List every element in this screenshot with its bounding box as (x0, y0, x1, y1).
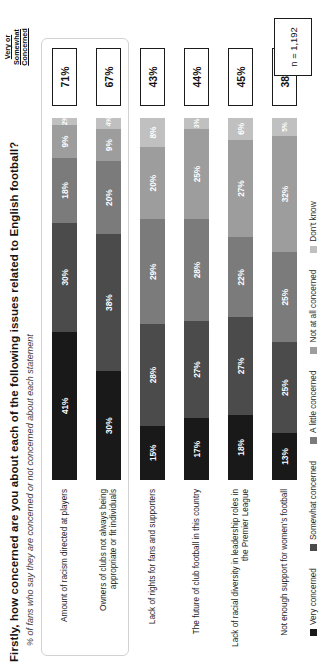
sample-size-label: n = 1,192 (288, 27, 299, 66)
summary-value-box: 43% (140, 48, 165, 106)
bar-segment: 41% (52, 332, 77, 480)
bar-segment: 4% (96, 118, 121, 129)
legend-swatch-icon (310, 544, 317, 551)
bar-row-label: Lack of racial diversity in leadership r… (231, 480, 250, 648)
bar-segment: 20% (140, 147, 165, 219)
bar-segment: 25% (184, 129, 209, 220)
legend-label: A little concerned (309, 371, 318, 433)
bar-row: The future of club football in this coun… (178, 48, 215, 648)
bar-segment: 15% (140, 426, 165, 480)
chart-title: Firstly, how concerned are you about eac… (8, 142, 20, 662)
bar-row-label: Owners of clubs not always being appropr… (99, 480, 118, 648)
bar-row: Owners of clubs not always being appropr… (90, 48, 127, 648)
bar-row: Lack of rights for fans and supporters15… (134, 48, 171, 648)
summary-value-box: 44% (184, 48, 209, 106)
legend-item[interactable]: Don't know (309, 201, 318, 252)
bar-segment: 32% (272, 136, 297, 252)
stacked-bar: 18%27%22%27%6% (228, 118, 253, 480)
chart-canvas: Firstly, how concerned are you about eac… (0, 0, 334, 672)
bar-row-label: Amount of racism directed at players (60, 480, 70, 648)
bar-segment: 2% (52, 118, 77, 125)
legend-swatch-icon (310, 437, 317, 444)
bar-row: Amount of racism directed at players41%3… (46, 48, 83, 648)
stacked-bar: 13%25%25%32%5% (272, 118, 297, 480)
bar-segment: 9% (96, 129, 121, 162)
bar-segment: 29% (140, 219, 165, 324)
bar-segment: 20% (96, 161, 121, 233)
summary-value-box: 71% (52, 48, 77, 106)
bar-segment: 25% (272, 252, 297, 343)
legend-label: Don't know (309, 201, 318, 241)
legend-item[interactable]: Not at all concerned (309, 270, 318, 354)
stacked-bar: 15%28%29%20%8% (140, 118, 165, 480)
bar-segment: 27% (228, 140, 253, 238)
bar-segment: 8% (140, 118, 165, 147)
bar-segment: 28% (184, 219, 209, 320)
bar-segment: 27% (228, 317, 253, 415)
legend-swatch-icon (310, 347, 317, 354)
summary-value-box: 67% (96, 48, 121, 106)
bar-segment: 28% (140, 324, 165, 425)
stacked-bar: 41%30%18%9%2% (52, 118, 77, 480)
bar-segment: 13% (272, 433, 297, 480)
bar-segment: 18% (52, 158, 77, 223)
bar-segment: 22% (228, 237, 253, 317)
bar-segment: 27% (184, 321, 209, 419)
legend-item[interactable]: Very concerned (309, 568, 318, 636)
bar-row-label: Lack of rights for fans and supporters (148, 480, 158, 648)
bar-segment: 9% (52, 125, 77, 158)
bar-row-label: Not enough support for women's football (280, 480, 290, 648)
bar-row: Lack of racial diversity in leadership r… (222, 48, 259, 648)
bar-segment: 38% (96, 234, 121, 372)
legend-label: Somewhat concerned (309, 461, 318, 540)
bar-segment: 6% (228, 118, 253, 140)
bar-segment: 3% (184, 118, 209, 129)
legend-item[interactable]: Somewhat concerned (309, 461, 318, 551)
legend-item[interactable]: A little concerned (309, 371, 318, 444)
stacked-bar: 17%27%28%25%3% (184, 118, 209, 480)
bar-segment: 25% (272, 342, 297, 433)
bar-segment: 17% (184, 418, 209, 480)
legend-swatch-icon (310, 246, 317, 253)
bar-segment: 18% (228, 415, 253, 480)
chart-legend: Very concernedSomewhat concernedA little… (309, 201, 318, 636)
legend-label: Very concerned (309, 568, 318, 625)
bar-segment: 5% (272, 118, 297, 136)
stacked-bar: 30%38%20%9%4% (96, 118, 121, 480)
bar-rows: Amount of racism directed at players41%3… (46, 48, 310, 648)
legend-label: Not at all concerned (309, 270, 318, 343)
summary-column-header: Very or Somewhat Concerned (4, 18, 30, 76)
summary-value-box: 45% (228, 48, 253, 106)
legend-swatch-icon (310, 629, 317, 636)
bar-row: Not enough support for women's football1… (266, 48, 303, 648)
sample-size-box: n = 1,192 (274, 18, 312, 76)
chart-subtitle: % of fans who say they are concerned or … (25, 334, 35, 646)
bar-segment: 30% (96, 371, 121, 480)
summary-header-line3: Concerned (20, 28, 29, 66)
bar-row-label: The future of club football in this coun… (192, 480, 202, 648)
bar-segment: 30% (52, 223, 77, 332)
